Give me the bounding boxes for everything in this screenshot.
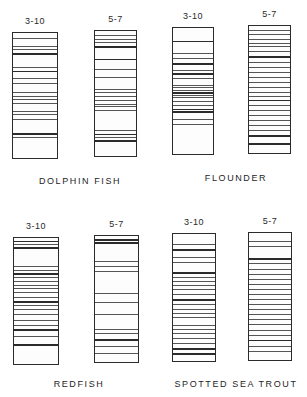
lane-label-ph-range: 5-7	[262, 9, 277, 19]
protein-band	[14, 270, 58, 271]
protein-band	[249, 110, 290, 111]
protein-band	[13, 71, 57, 73]
protein-band	[14, 247, 58, 249]
protein-band	[173, 87, 213, 88]
protein-band	[249, 56, 290, 58]
protein-band	[13, 53, 57, 55]
protein-band	[249, 274, 291, 275]
protein-band	[249, 72, 290, 73]
protein-band	[249, 346, 291, 347]
protein-band	[95, 339, 138, 341]
protein-band	[249, 143, 290, 145]
gel-column	[248, 25, 291, 154]
protein-band	[14, 297, 58, 298]
protein-band	[14, 288, 58, 289]
lane-label-ph-range: 3-10	[26, 221, 46, 231]
protein-band	[14, 309, 58, 310]
protein-band	[249, 46, 290, 47]
species-label: REDFISH	[54, 379, 105, 389]
gel-column	[13, 237, 59, 365]
gel-column	[248, 232, 292, 361]
protein-band	[95, 242, 138, 244]
protein-band	[249, 340, 291, 342]
protein-band	[13, 78, 57, 79]
lane-label-ph-range: 5-7	[263, 216, 278, 226]
protein-band	[249, 351, 291, 352]
protein-band	[173, 325, 215, 326]
protein-band	[249, 289, 291, 290]
protein-band	[95, 239, 138, 242]
protein-band	[249, 105, 290, 106]
protein-band	[173, 294, 215, 295]
protein-band	[249, 299, 291, 300]
protein-band	[13, 133, 57, 135]
protein-band	[249, 30, 290, 31]
protein-band	[95, 96, 136, 97]
protein-band	[249, 43, 290, 44]
lane-label-ph-range: 5-7	[108, 14, 123, 24]
protein-band	[95, 104, 136, 105]
protein-band	[95, 110, 136, 111]
protein-band	[14, 320, 58, 321]
protein-band	[249, 92, 290, 93]
protein-band	[249, 284, 291, 285]
protein-band	[95, 261, 138, 262]
protein-band	[95, 333, 138, 334]
protein-band	[249, 39, 290, 40]
lane-label-ph-range: 3-10	[184, 217, 204, 227]
protein-band	[249, 115, 290, 116]
gel-column	[172, 233, 216, 362]
protein-band	[249, 241, 291, 242]
protein-band	[249, 258, 291, 260]
protein-band	[95, 314, 138, 315]
protein-band	[249, 67, 290, 68]
species-label: FLOUNDER	[205, 173, 267, 183]
protein-band	[95, 271, 138, 272]
protein-band	[13, 83, 57, 84]
protein-band	[173, 95, 213, 96]
protein-band	[249, 319, 291, 320]
protein-band	[173, 304, 215, 305]
protein-band	[249, 51, 290, 52]
protein-band	[173, 109, 213, 111]
protein-band	[173, 313, 215, 314]
protein-band	[95, 59, 136, 61]
protein-band	[249, 130, 290, 131]
species-label: SPOTTED SEA TROUT	[174, 379, 297, 389]
protein-band	[173, 92, 213, 94]
protein-band	[13, 49, 57, 50]
gel-column	[94, 235, 139, 363]
protein-band	[13, 92, 57, 93]
protein-band	[173, 281, 215, 282]
protein-band	[13, 119, 57, 120]
protein-band	[173, 97, 213, 98]
protein-band	[95, 100, 136, 101]
protein-band	[249, 246, 291, 247]
lane-label-ph-range: 3-10	[183, 11, 203, 21]
protein-band	[14, 292, 58, 293]
protein-band	[13, 114, 57, 115]
protein-band	[173, 338, 215, 339]
protein-band	[95, 35, 136, 36]
species-label: DOLPHIN FISH	[39, 176, 121, 186]
protein-band	[173, 309, 215, 310]
protein-band	[173, 289, 215, 290]
protein-band	[173, 85, 213, 86]
protein-band	[13, 38, 57, 39]
protein-band	[249, 87, 290, 88]
protein-band	[173, 277, 215, 278]
protein-band	[95, 137, 136, 138]
protein-band	[95, 46, 136, 48]
gel-column	[12, 32, 58, 159]
protein-band	[95, 106, 136, 107]
protein-band	[249, 34, 290, 35]
protein-band	[95, 77, 136, 78]
protein-band	[95, 353, 138, 354]
protein-band	[173, 111, 213, 113]
protein-band	[173, 124, 213, 125]
protein-band	[173, 299, 215, 301]
protein-band	[13, 96, 57, 97]
protein-band	[249, 330, 291, 331]
protein-band	[173, 90, 213, 91]
protein-band	[173, 63, 213, 65]
